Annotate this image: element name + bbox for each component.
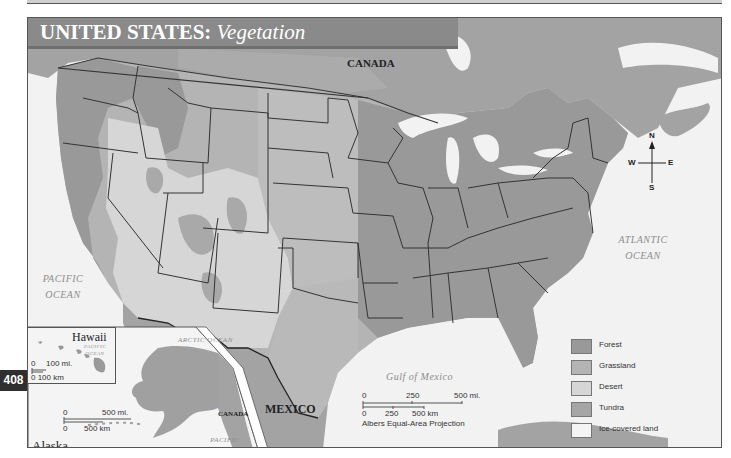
compass-n: N (649, 131, 655, 140)
label-canada: CANADA (347, 57, 395, 69)
label-canada-inset: CANADA (218, 410, 248, 418)
grassland-swatch (571, 360, 592, 375)
ice-covered-land-swatch (571, 423, 592, 438)
forest-swatch (571, 339, 592, 354)
map-title-main: UNITED STATES: (40, 20, 211, 44)
compass-e: E (668, 158, 673, 167)
label-pacific-ocean: PACIFIC OCEAN (33, 271, 93, 303)
previous-map-edge (27, 0, 722, 4)
label-arctic-ocean: ARCTIC OCEAN (178, 332, 233, 348)
projection-note: Albers Equal-Area Projection (362, 419, 465, 428)
map-title: UNITED STATES: Vegetation (40, 20, 305, 45)
label-atlantic-ocean: ATLANTIC OCEAN (608, 232, 678, 264)
label-hawaii-pacific-ocean: PACIFIC OCEAN (84, 343, 106, 357)
label-alaska-pacific-ocean: PACIFIC OCEAN (200, 435, 250, 448)
label-gulf-of-mexico: Gulf of Mexico (386, 369, 453, 385)
map-title-bar: UNITED STATES: Vegetation (28, 18, 458, 49)
hawaii-inset: Hawaii PACIFIC OCEAN 0 100 mi. 0 100 km (28, 327, 116, 384)
compass-rose: N S E W (626, 133, 682, 193)
vegetation-map: UNITED STATES: Vegetation CANADA MEXICO … (27, 17, 722, 448)
map-title-sub: Vegetation (217, 20, 306, 44)
compass-w: W (628, 158, 636, 167)
compass-s: S (649, 183, 654, 192)
desert-swatch (571, 381, 592, 396)
tundra-swatch (571, 402, 592, 417)
page-number-tab: 408 (0, 370, 27, 391)
alaska-title: Alaska (32, 438, 68, 448)
